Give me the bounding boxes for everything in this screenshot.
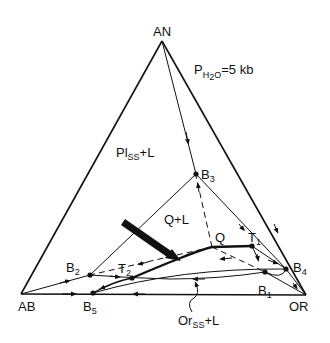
pressure-condition: PH2O=5 kb	[194, 62, 253, 82]
point-b4	[283, 266, 288, 271]
point-label-t1: T1	[248, 230, 261, 247]
point-label-b3: B3	[201, 167, 215, 184]
thick-arrow	[123, 222, 181, 261]
field-label-quartz: Q+L	[164, 212, 189, 227]
point-b5	[90, 290, 95, 295]
point-b2	[87, 272, 92, 277]
vertex-label-or: OR	[289, 299, 309, 314]
triangle-outline	[21, 41, 306, 295]
ternary-phase-diagram: AN AB OR PH2O=5 kb PlSS+L Q+L OrSS+L B3 …	[0, 0, 330, 343]
point-label-t2: T2	[118, 261, 131, 278]
point-label-b5: B5	[83, 299, 97, 316]
cotectic-lower-line	[93, 278, 132, 293]
point-b1	[262, 269, 267, 274]
point-label-b1: B1	[258, 283, 272, 300]
field-label-plagioclase: PlSS+L	[116, 145, 154, 162]
vertex-label-an: AN	[153, 24, 171, 39]
orthoclase-pointer	[189, 284, 197, 312]
point-label-b2: B2	[66, 260, 80, 277]
point-label-q: Q	[215, 230, 225, 245]
point-b3	[193, 171, 198, 176]
field-label-orthoclase: OrSS+L	[178, 313, 219, 330]
field-boundaries	[21, 41, 306, 295]
point-label-b4: B4	[293, 260, 307, 277]
vertex-label-ab: AB	[18, 299, 35, 314]
